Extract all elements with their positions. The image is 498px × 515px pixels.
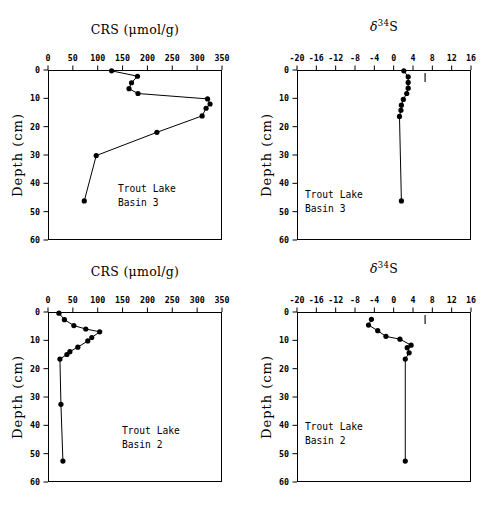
x-tick-label: -4 — [369, 295, 379, 305]
y-tick-label: 0 — [265, 65, 289, 75]
y-tick-label: 10 — [16, 335, 40, 345]
panel-title-d34s-basin2: δ34S — [297, 260, 471, 276]
y-tick-label: 30 — [16, 392, 40, 402]
x-tick-label: 8 — [430, 53, 435, 63]
panel-title-crs-basin3: CRS (μmol/g) — [48, 22, 222, 37]
sulfur-symbol: S — [389, 261, 398, 276]
x-tick-label: 250 — [165, 295, 180, 305]
x-tick-label: 50 — [68, 295, 78, 305]
y-tick-label: 10 — [265, 335, 289, 345]
y-tick-label: 40 — [265, 178, 289, 188]
plot-annotation-crs-basin3: Trout LakeBasin 3 — [118, 182, 176, 210]
x-tick-label: 350 — [215, 53, 230, 63]
x-tick-label: -20 — [290, 295, 305, 305]
x-tick-label: 300 — [190, 295, 205, 305]
figure-depth-profiles: CRS (μmol/g)Depth (cm)050100150200250300… — [0, 0, 498, 515]
x-tick-label: -16 — [309, 295, 324, 305]
x-tick-label: 16 — [466, 295, 476, 305]
x-tick-label: -16 — [309, 53, 324, 63]
x-tick-label: 16 — [466, 53, 476, 63]
x-tick-label: 0 — [391, 53, 396, 63]
plot-frame-crs-basin3 — [48, 70, 222, 240]
y-tick-label: 40 — [16, 420, 40, 430]
x-tick-label: 100 — [90, 295, 105, 305]
y-tick-label: 50 — [265, 449, 289, 459]
y-tick-label: 40 — [16, 178, 40, 188]
y-tick-label: 20 — [265, 364, 289, 374]
y-tick-label: 40 — [265, 420, 289, 430]
annotation-site-name: Trout Lake — [118, 182, 176, 196]
annotation-basin-name: Basin 3 — [305, 202, 363, 216]
x-tick-label: 200 — [140, 295, 155, 305]
y-tick-label: 20 — [16, 364, 40, 374]
annotation-site-name: Trout Lake — [305, 188, 363, 202]
x-tick-label: 0 — [46, 295, 51, 305]
x-tick-label: 250 — [165, 53, 180, 63]
y-tick-label: 20 — [265, 122, 289, 132]
y-tick-label: 10 — [265, 93, 289, 103]
plot-frame-crs-basin2 — [48, 312, 222, 482]
y-tick-label: 10 — [16, 93, 40, 103]
x-tick-label: 150 — [115, 295, 130, 305]
plot-annotation-crs-basin2: Trout LakeBasin 2 — [122, 424, 180, 452]
annotation-site-name: Trout Lake — [122, 424, 180, 438]
x-tick-label: 0 — [391, 295, 396, 305]
x-tick-label: 4 — [411, 53, 416, 63]
x-tick-label: -12 — [328, 53, 343, 63]
delta-symbol: δ — [370, 261, 378, 276]
annotation-site-name: Trout Lake — [305, 420, 363, 434]
y-tick-label: 30 — [265, 150, 289, 160]
y-tick-label: 60 — [265, 235, 289, 245]
x-tick-label: -12 — [328, 295, 343, 305]
x-tick-label: -4 — [369, 53, 379, 63]
x-tick-label: 4 — [411, 295, 416, 305]
y-tick-label: 0 — [265, 307, 289, 317]
x-tick-label: 12 — [447, 295, 457, 305]
x-tick-label: 0 — [46, 53, 51, 63]
annotation-basin-name: Basin 2 — [305, 434, 363, 448]
y-tick-label: 30 — [16, 150, 40, 160]
panel-title-crs-basin2: CRS (μmol/g) — [48, 264, 222, 279]
y-tick-label: 60 — [265, 477, 289, 487]
sulfur-symbol: S — [389, 19, 398, 34]
y-tick-label: 0 — [16, 307, 40, 317]
y-tick-label: 30 — [265, 392, 289, 402]
x-tick-label: 100 — [90, 53, 105, 63]
y-tick-label: 60 — [16, 477, 40, 487]
x-tick-label: 12 — [447, 53, 457, 63]
x-tick-label: -8 — [350, 53, 360, 63]
isotope-mass-superscript: 34 — [378, 18, 389, 28]
y-tick-label: 0 — [16, 65, 40, 75]
annotation-basin-name: Basin 2 — [122, 438, 180, 452]
plot-frame-d34s-basin2 — [297, 312, 471, 482]
plot-annotation-d34s-basin3: Trout LakeBasin 3 — [305, 188, 363, 216]
y-tick-label: 50 — [16, 449, 40, 459]
plot-annotation-d34s-basin2: Trout LakeBasin 2 — [305, 420, 363, 448]
y-tick-label: 20 — [16, 122, 40, 132]
y-tick-label: 50 — [265, 207, 289, 217]
x-tick-label: 300 — [190, 53, 205, 63]
x-tick-label: 350 — [215, 295, 230, 305]
x-tick-label: -20 — [290, 53, 305, 63]
delta-symbol: δ — [370, 19, 378, 34]
x-tick-label: 8 — [430, 295, 435, 305]
isotope-mass-superscript: 34 — [378, 260, 389, 270]
x-tick-label: 50 — [68, 53, 78, 63]
x-tick-label: -8 — [350, 295, 360, 305]
y-tick-label: 60 — [16, 235, 40, 245]
annotation-basin-name: Basin 3 — [118, 196, 176, 210]
panel-title-d34s-basin3: δ34S — [297, 18, 471, 34]
x-tick-label: 200 — [140, 53, 155, 63]
x-tick-label: 150 — [115, 53, 130, 63]
y-tick-label: 50 — [16, 207, 40, 217]
